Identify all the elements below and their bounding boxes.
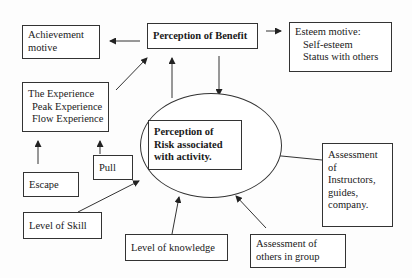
node-level-of-knowledge: Level of knowledge xyxy=(125,234,228,261)
instructors-line-5: company. xyxy=(328,199,387,212)
achievement-line-1: Achievement xyxy=(28,29,94,42)
node-level-of-skill: Level of Skill xyxy=(23,212,102,239)
esteem-title: Esteem motive: xyxy=(295,26,386,39)
pull-label: Pull xyxy=(99,162,116,173)
instructors-line-4: guides, xyxy=(328,187,387,200)
arrow-knowledge-to-risk xyxy=(172,197,179,234)
arrow-others-to-risk xyxy=(236,196,266,228)
escape-label: Escape xyxy=(29,179,59,190)
instructors-line-2: of xyxy=(328,162,387,175)
arrow-skill-to-risk xyxy=(78,181,139,212)
risk-line-1: Perception of xyxy=(154,126,236,139)
node-esteem-motive: Esteem motive: Self-esteem Status with o… xyxy=(289,22,392,72)
risk-line-2: Risk associated xyxy=(154,139,236,152)
experience-item-flow: Flow Experience xyxy=(28,113,103,126)
experience-title: The Experience xyxy=(28,88,103,101)
node-perception-of-risk: Perception of Risk associated with activ… xyxy=(148,120,242,170)
others-line-1: Assessment of xyxy=(256,238,340,251)
risk-line-3: with activity. xyxy=(154,151,236,164)
esteem-item-self-esteem: Self-esteem xyxy=(295,39,386,52)
experience-item-peak: Peak Experience xyxy=(28,101,103,114)
instructors-line-1: Assessment xyxy=(328,149,387,162)
node-assessment-of-instructors: Assessment of Instructors, guides, compa… xyxy=(322,143,393,227)
node-escape: Escape xyxy=(23,172,79,197)
node-the-experience: The Experience Peak Experience Flow Expe… xyxy=(22,82,109,132)
knowledge-label: Level of knowledge xyxy=(131,242,215,253)
node-pull: Pull xyxy=(93,155,133,180)
benefit-label: Perception of Benefit xyxy=(153,30,247,41)
others-line-2: others in group xyxy=(256,251,340,264)
achievement-line-2: motive xyxy=(28,42,94,55)
instructors-line-3: Instructors, xyxy=(328,174,387,187)
node-perception-of-benefit: Perception of Benefit xyxy=(147,23,258,49)
node-achievement-motive: Achievement motive xyxy=(22,25,100,59)
esteem-item-status: Status with others xyxy=(295,51,386,64)
diagram-canvas: Achievement motive Perception of Benefit… xyxy=(0,0,412,278)
arrow-experience-to-benefit xyxy=(116,58,147,90)
node-assessment-of-others: Assessment of others in group xyxy=(250,234,346,268)
skill-label: Level of Skill xyxy=(29,220,87,231)
